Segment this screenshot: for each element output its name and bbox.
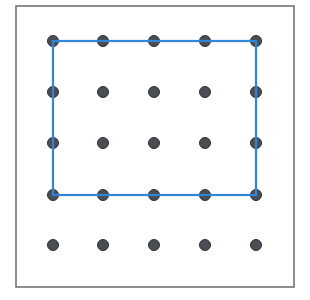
peg-dot <box>48 240 59 251</box>
rubber-band-rectangle <box>53 41 256 195</box>
peg-dot <box>98 87 109 98</box>
peg-dot <box>149 240 160 251</box>
peg-dot <box>98 138 109 149</box>
geoboard <box>0 0 310 300</box>
peg-dot <box>200 138 211 149</box>
peg-dot <box>149 138 160 149</box>
peg-dot <box>200 87 211 98</box>
peg-dot <box>149 87 160 98</box>
peg-dot <box>200 240 211 251</box>
peg-dot <box>251 240 262 251</box>
peg-dot <box>98 240 109 251</box>
